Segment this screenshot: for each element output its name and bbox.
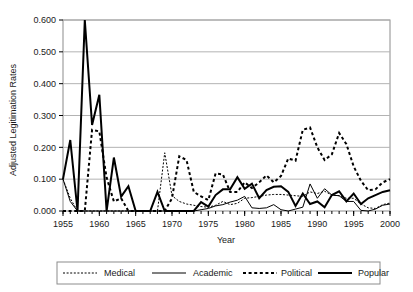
x-tick-label: 1995 [344, 219, 364, 229]
y-tick-label: 0.600 [33, 15, 56, 25]
legend-label-popular: Popular [358, 268, 389, 278]
x-axis-title: Year [217, 235, 235, 245]
legend-label-academic: Academic [193, 268, 233, 278]
x-tick-label: 1960 [89, 219, 109, 229]
legend-label-medical: Medical [104, 268, 135, 278]
chart-figure: Adjusted Legitimation Rates 0.0000.1000.… [0, 0, 413, 292]
x-tick-label: 1980 [235, 219, 255, 229]
y-tick-label: 0.100 [33, 174, 56, 184]
x-tick-label: 1985 [271, 219, 291, 229]
x-tick-label: 1965 [126, 219, 146, 229]
x-tick-label: 1955 [53, 219, 73, 229]
x-tick-label: 1990 [307, 219, 327, 229]
y-tick-label: 0.400 [33, 79, 56, 89]
x-tick-label: 1970 [162, 219, 182, 229]
legend-label-political: Political [281, 268, 312, 278]
y-tick-label: 0.300 [33, 111, 56, 121]
y-tick-label: 0.000 [33, 206, 56, 216]
x-tick-label: 1975 [198, 219, 218, 229]
y-axis-title: Adjusted Legitimation Rates [8, 63, 18, 176]
x-tick-label: 2000 [380, 219, 400, 229]
y-tick-label: 0.200 [33, 143, 56, 153]
legitimation-rates-line-chart: Adjusted Legitimation Rates 0.0000.1000.… [0, 0, 413, 292]
y-tick-label: 0.500 [33, 47, 56, 57]
